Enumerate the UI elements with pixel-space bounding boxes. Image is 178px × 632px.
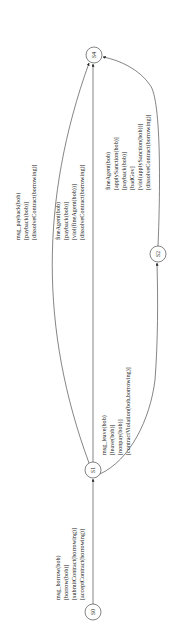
svg-text:S1: S1 (90, 467, 96, 473)
svg-text:[payback(bob)]: [payback(bob)] (62, 202, 70, 240)
svg-text:msg_leave(bob): msg_leave(bob) (100, 415, 108, 455)
label-s1-s2: msg_leave(bob) [leave(bob)] [nonpay(bob)… (100, 367, 132, 455)
label-s1-s4-payback: msg_payback(bob) [payback(bob)] [dissolv… (14, 164, 38, 240)
label-s1-s4-fine: fineAgent(bob) [payback(bob)] [viol(fine… (54, 164, 86, 240)
svg-text:[nonpay(bob)]: [nonpay(bob)] (116, 419, 124, 455)
svg-text:[acceptContract(borrowing)]: [acceptContract(borrowing)] (78, 529, 86, 600)
state-s2[interactable]: S2 (150, 246, 166, 262)
svg-text:[dissolveContract(borrowing)]: [dissolveContract(borrowing)] (78, 164, 86, 240)
svg-text:[borrow(bob)]: [borrow(bob)] (62, 565, 70, 600)
state-s1[interactable]: S1 (85, 462, 101, 478)
svg-text:[leave(bob)]: [leave(bob)] (108, 424, 116, 455)
svg-text:S0: S0 (90, 609, 96, 615)
svg-text:msg_borrow(bob): msg_borrow(bob) (54, 555, 62, 600)
svg-text:[applySanction(bob)]: [applySanction(bob)] (112, 137, 120, 190)
svg-text:[dissolveContract(borrowing)]: [dissolveContract(borrowing)] (144, 114, 152, 190)
svg-text:[dissolveContract(borrowing)]: [dissolveContract(borrowing)] (30, 164, 38, 240)
svg-text:[payback(bob)]: [payback(bob)] (120, 152, 128, 190)
state-diagram: S0 S1 S2 S4 msg_borrow(bob) [borrow(bob)… (0, 0, 178, 632)
state-s0[interactable]: S0 (85, 604, 101, 620)
svg-text:fineAgent(bob): fineAgent(bob) (54, 202, 62, 240)
svg-text:[submitContract(borrowing)]: [submitContract(borrowing)] (70, 528, 78, 600)
svg-text:S2: S2 (155, 251, 161, 257)
label-s0-s1: msg_borrow(bob) [borrow(bob)] [submitCon… (54, 528, 86, 600)
svg-text:[contractViolation(bob,borrowi: [contractViolation(bob,borrowing)] (124, 367, 132, 455)
svg-text:fineAgent(bob): fineAgent(bob) (104, 152, 112, 190)
edge-s1-s4-payback (52, 63, 89, 463)
svg-text:[viol(fineAgent(bob))]: [viol(fineAgent(bob))] (70, 184, 78, 240)
state-s4[interactable]: S4 (86, 47, 102, 63)
svg-text:msg_payback(bob): msg_payback(bob) (14, 193, 22, 240)
svg-text:[viol(applySanction(bob))]: [viol(applySanction(bob))] (136, 123, 144, 190)
svg-text:S4: S4 (91, 52, 97, 58)
label-s2-s4: fineAgent(bob) [applySanction(bob)] [pay… (104, 114, 152, 190)
svg-text:[payback(bob)]: [payback(bob)] (22, 202, 30, 240)
svg-text:[badGov]: [badGov] (128, 166, 135, 190)
